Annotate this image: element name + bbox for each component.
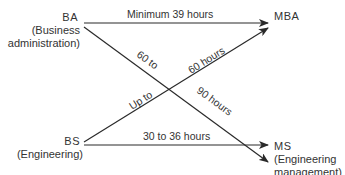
node-ba-subtitle-1: (Business <box>4 24 80 37</box>
node-mba-title: MBA <box>274 10 299 23</box>
edge-label-ba-mba: Minimum 39 hours <box>127 8 213 20</box>
node-ms: MS (Engineering management) <box>274 140 342 175</box>
node-ms-title: MS <box>274 140 342 153</box>
node-ms-subtitle-2: management) <box>274 166 342 175</box>
node-ba: BA (Business administration) <box>4 11 80 50</box>
edge-bs-mba-arrow <box>84 28 268 142</box>
node-mba: MBA <box>274 10 299 23</box>
node-ba-subtitle-2: administration) <box>4 37 80 50</box>
node-bs-subtitle: (Engineering) <box>4 148 83 161</box>
node-bs-title: BS <box>4 135 83 148</box>
edge-label-ba-ms-part1: 60 to <box>135 48 161 72</box>
edge-label-bs-ms: 30 to 36 hours <box>143 130 210 142</box>
node-ms-subtitle-1: (Engineering <box>274 153 342 166</box>
degree-paths-diagram: Minimum 39 hours 60 to 90 hours Up to 60… <box>0 0 345 175</box>
edge-label-bs-mba-part1: Up to <box>127 88 155 112</box>
edge-label-bs-mba-part2: 60 hours <box>186 44 227 76</box>
node-ba-title: BA <box>4 11 80 24</box>
node-bs: BS (Engineering) <box>4 135 83 161</box>
